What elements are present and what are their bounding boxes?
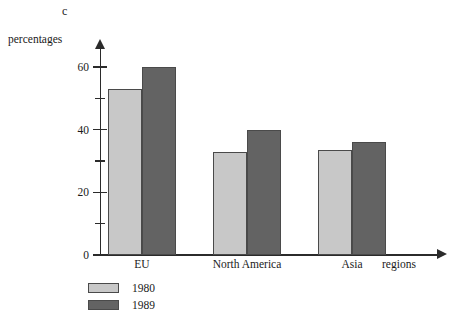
- y-tick-label: 20: [63, 186, 89, 198]
- y-tick-label: 40: [63, 124, 89, 136]
- y-tick-minor: [95, 223, 105, 224]
- bar-eu-1980: [108, 89, 142, 255]
- y-tick-minor: [95, 160, 105, 161]
- category-label-north-america: North America: [197, 258, 297, 271]
- bar-asia-1980: [318, 150, 352, 255]
- legend-swatch-1980: [88, 283, 119, 293]
- legend-label-1989: 1989: [132, 299, 155, 311]
- bar-eu-1989: [142, 67, 176, 255]
- legend-swatch-1989: [88, 300, 119, 310]
- category-label-asia: Asia: [302, 258, 402, 271]
- y-tick-major: [93, 254, 107, 255]
- y-tick-label: 0: [63, 249, 89, 261]
- bar-north-america-1989: [247, 130, 281, 255]
- y-tick-major: [93, 66, 107, 67]
- x-axis-arrowhead: [437, 249, 447, 259]
- y-tick-minor: [95, 98, 105, 99]
- y-tick-label: 60: [63, 61, 89, 73]
- legend-label-1980: 1980: [132, 282, 155, 294]
- figure-letter-label: c: [62, 4, 67, 18]
- legend-item-1989: 1989: [88, 298, 155, 312]
- y-tick-major: [93, 129, 107, 130]
- y-axis-title: percentages: [8, 33, 62, 46]
- y-axis-arrowhead: [95, 39, 105, 49]
- y-tick-major: [93, 192, 107, 193]
- bar-north-america-1980: [213, 152, 247, 255]
- legend-item-1980: 1980: [88, 281, 155, 295]
- bar-chart-figure: c percentages regions 0204060 EUNorth Am…: [0, 0, 451, 318]
- category-label-eu: EU: [92, 258, 192, 271]
- legend: 19801989: [88, 281, 155, 315]
- bar-asia-1989: [352, 142, 386, 255]
